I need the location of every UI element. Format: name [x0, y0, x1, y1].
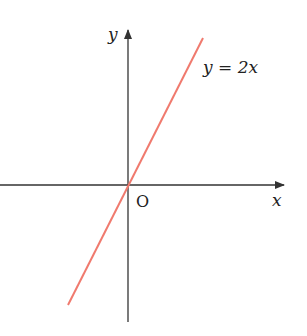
- x-axis-label: x: [272, 190, 282, 210]
- y-axis-label: y: [107, 24, 118, 44]
- coordinate-plane: y x O y = 2x: [0, 0, 307, 336]
- function-line: [68, 38, 203, 305]
- origin-label: O: [136, 192, 149, 211]
- line-label: y = 2x: [202, 57, 258, 77]
